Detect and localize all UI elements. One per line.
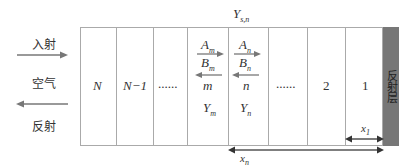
- layer-ellipsis: ......: [276, 76, 296, 92]
- layer-divider: [345, 27, 346, 146]
- thickness-xn-arrow-icon: [228, 145, 385, 155]
- layer-label-2: 2: [323, 78, 330, 94]
- layer-divider: [307, 27, 308, 146]
- thickness-xn-label: xn: [240, 152, 249, 167]
- layer-label-n: n: [243, 78, 250, 94]
- layer-divider: [187, 27, 188, 146]
- layer-label-N: N: [93, 78, 102, 94]
- reflected-arrow-icon: [15, 99, 70, 109]
- surface-admittance-label: Ys,n: [233, 6, 249, 24]
- air-medium-label: 空气: [32, 74, 56, 91]
- thickness-x1-arrow-icon: [345, 134, 385, 144]
- layer-divider: [268, 27, 269, 146]
- layer-label-1: 1: [362, 78, 369, 94]
- layer-divider: [153, 27, 154, 146]
- backward-amplitude-n: Bn: [239, 55, 251, 73]
- incident-arrow-icon: [15, 50, 70, 60]
- admittance-m: Ym: [203, 100, 216, 118]
- reflective-layer-label: 反射层: [383, 27, 399, 146]
- reflected-label: 反射: [32, 117, 56, 134]
- admittance-n: Yn: [240, 100, 251, 118]
- layer-divider: [228, 27, 229, 146]
- layer-label-m: m: [203, 78, 212, 94]
- backward-amplitude-m: Bm: [201, 55, 215, 73]
- layer-divider: [116, 27, 117, 146]
- layer-label-N-1: N−1: [123, 78, 147, 94]
- layer-ellipsis: ......: [158, 76, 178, 92]
